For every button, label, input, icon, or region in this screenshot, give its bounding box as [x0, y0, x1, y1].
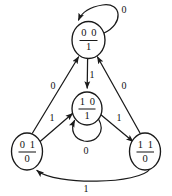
edge-00-to-10: 1 [87, 59, 94, 89]
edge-01-to-00: 0 [33, 57, 79, 133]
edge-label-01-to-10: 1 [50, 112, 55, 123]
state-10-bits: 1 0 [80, 96, 96, 107]
state-diagram-canvas: 0 0 1 1 1 1 0 [0, 0, 172, 196]
edge-01-to-10-line [40, 114, 73, 143]
state-node-00[interactable]: 0 0 1 [72, 22, 105, 59]
state-node-11[interactable]: 1 1 0 [130, 133, 161, 170]
state-01-output: 0 [24, 153, 29, 164]
edge-11-to-01-curve [37, 169, 150, 181]
edge-label-00-to-10: 1 [90, 69, 95, 80]
state-00-bits: 0 0 [81, 27, 97, 38]
state-01-bits: 0 1 [20, 139, 36, 150]
edge-label-11-to-01: 1 [84, 183, 89, 194]
edge-01-to-00-line [33, 57, 79, 133]
edge-label-01-to-00: 0 [51, 80, 56, 91]
edge-label-00-self-loop: 0 [122, 4, 127, 15]
state-00-output: 1 [86, 41, 91, 52]
edge-label-10-self-loop: 0 [84, 145, 89, 156]
edge-label-10-to-11: 1 [117, 112, 122, 123]
edge-01-to-10: 1 [40, 112, 73, 142]
state-11-output: 0 [142, 153, 147, 164]
state-transition-diagram: 0 0 1 1 1 1 0 [0, 0, 172, 196]
state-node-01[interactable]: 0 1 0 [12, 133, 43, 170]
state-11-bits: 1 1 [138, 139, 154, 150]
edge-10-to-11: 1 [100, 112, 133, 141]
edge-label-11-to-00: 0 [122, 80, 127, 91]
edge-11-to-01: 1 [37, 169, 150, 194]
state-node-10[interactable]: 1 0 1 [72, 92, 102, 125]
state-10-output: 1 [84, 110, 89, 121]
